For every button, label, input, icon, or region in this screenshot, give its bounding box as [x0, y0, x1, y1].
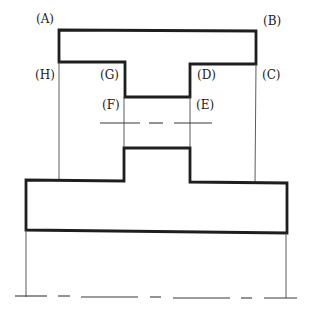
label-a: (A)	[36, 12, 54, 26]
label-c: (C)	[262, 68, 281, 82]
label-e: (E)	[196, 98, 214, 112]
technical-drawing: (A) (B) (H) (G) (D) (C) (F) (E)	[0, 0, 313, 317]
label-f: (F)	[102, 98, 120, 112]
label-d: (D)	[197, 68, 216, 82]
top-view-outline	[59, 30, 256, 97]
label-g: (G)	[100, 68, 119, 82]
label-b: (B)	[263, 14, 281, 28]
ground-line	[15, 296, 297, 298]
projection-line-c	[255, 64, 256, 183]
front-view-outline	[26, 148, 287, 233]
label-h: (H)	[35, 68, 55, 82]
